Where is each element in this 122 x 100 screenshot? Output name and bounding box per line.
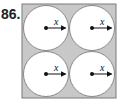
circle-1: x bbox=[24, 6, 69, 51]
radius-label: x bbox=[53, 62, 59, 73]
radius-label: x bbox=[53, 16, 59, 27]
radius-label: x bbox=[99, 62, 105, 73]
four-circles-in-square-diagram: xxxx bbox=[0, 0, 122, 100]
circle-2: x bbox=[70, 6, 115, 51]
circle-4: x bbox=[70, 52, 115, 97]
radius-label: x bbox=[99, 16, 105, 27]
circle-3: x bbox=[24, 52, 69, 97]
